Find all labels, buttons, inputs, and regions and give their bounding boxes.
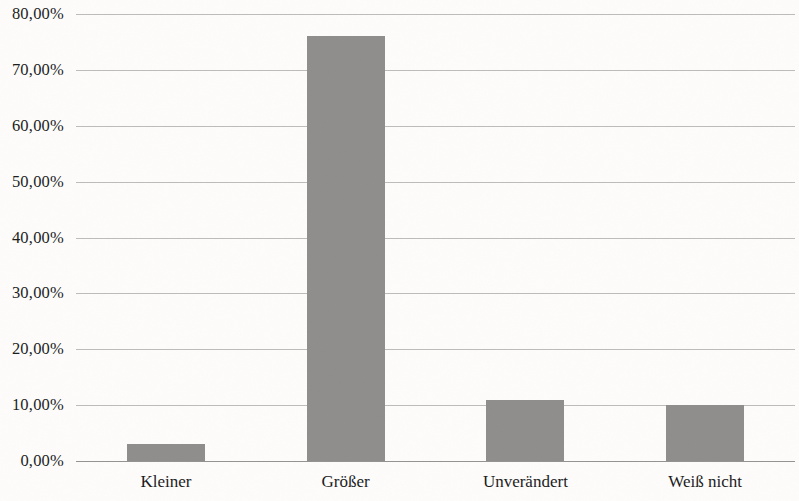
y-axis-tick-label: 30,00% bbox=[0, 283, 64, 303]
bar-chart: 0,00%10,00%20,00%30,00%40,00%50,00%60,00… bbox=[0, 0, 799, 501]
y-axis-tick-label: 80,00% bbox=[0, 4, 64, 24]
y-axis-tick-label: 0,00% bbox=[0, 451, 64, 471]
y-axis-tick-label: 60,00% bbox=[0, 116, 64, 136]
y-axis-tick-label: 50,00% bbox=[0, 172, 64, 192]
x-axis-tick-label: Weiß nicht bbox=[668, 472, 742, 492]
y-axis: 0,00%10,00%20,00%30,00%40,00%50,00%60,00… bbox=[0, 0, 799, 501]
x-axis-tick-label: Größer bbox=[322, 472, 370, 492]
x-axis-tick-label: Unverändert bbox=[483, 472, 568, 492]
x-axis-tick-label: Kleiner bbox=[140, 472, 191, 492]
y-axis-tick-label: 70,00% bbox=[0, 60, 64, 80]
y-axis-tick-label: 40,00% bbox=[0, 228, 64, 248]
y-axis-tick-label: 20,00% bbox=[0, 339, 64, 359]
y-axis-tick-label: 10,00% bbox=[0, 395, 64, 415]
